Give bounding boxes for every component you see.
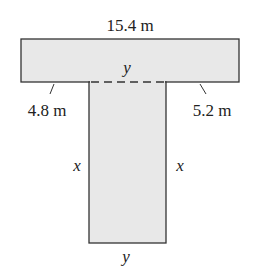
left-overhang-label: 4.8 m (28, 101, 67, 120)
left-side-x-label: x (72, 156, 81, 175)
t-shape-diagram: 15.4 m y 4.8 m 5.2 m x x y (0, 0, 261, 277)
right-overhang-label: 5.2 m (193, 101, 232, 120)
stem-rectangle (89, 82, 166, 243)
top-inner-y-label: y (121, 58, 131, 77)
bottom-y-label: y (120, 247, 130, 266)
top-width-label: 15.4 m (106, 16, 153, 35)
left-leader-line (50, 84, 54, 94)
right-leader-line (200, 84, 206, 94)
right-side-x-label: x (175, 156, 184, 175)
